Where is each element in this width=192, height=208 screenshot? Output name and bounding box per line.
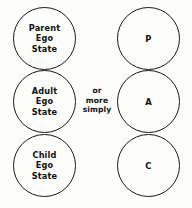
circle-adult-ego-state-label: Adult Ego State bbox=[32, 86, 58, 117]
circle-p-label: P bbox=[145, 34, 151, 44]
circle-c: C bbox=[117, 134, 180, 197]
connector-note: or more simply bbox=[78, 86, 116, 115]
circle-parent-ego-state-label: Parent Ego State bbox=[29, 23, 61, 54]
circle-a: A bbox=[117, 70, 180, 133]
ego-state-diagram: Parent Ego State Adult Ego State Child E… bbox=[0, 0, 192, 208]
circle-child-ego-state-label: Child Ego State bbox=[32, 150, 58, 181]
circle-parent-ego-state: Parent Ego State bbox=[13, 7, 76, 70]
circle-c-label: C bbox=[145, 161, 151, 171]
circle-p: P bbox=[117, 7, 180, 70]
circle-child-ego-state: Child Ego State bbox=[13, 134, 76, 197]
circle-a-label: A bbox=[145, 97, 152, 107]
circle-adult-ego-state: Adult Ego State bbox=[13, 70, 76, 133]
